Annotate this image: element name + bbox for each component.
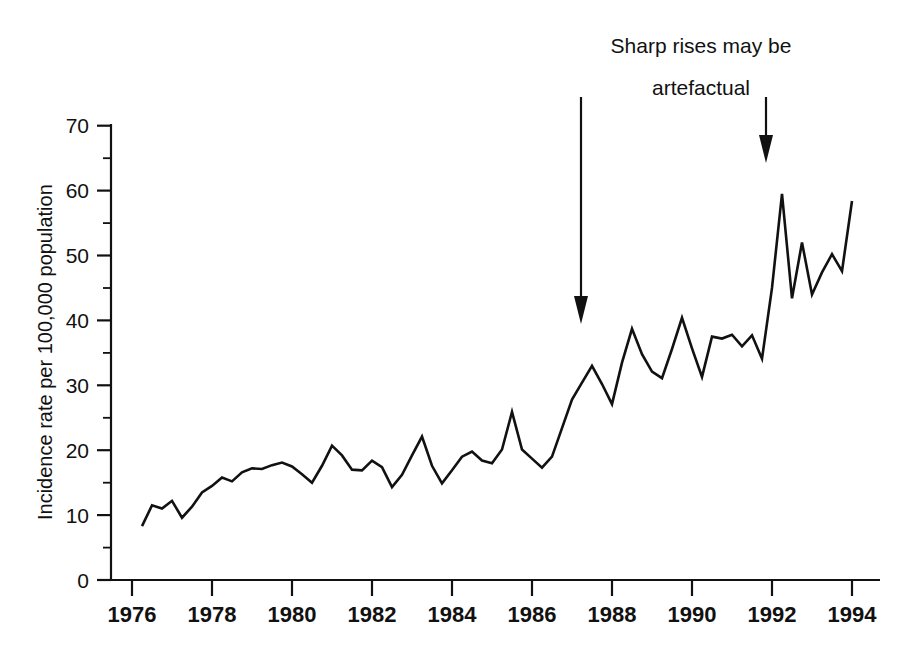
y-tick-label-30: 30 (66, 374, 89, 397)
annotation-line-2: artefactual (652, 76, 750, 99)
x-tick-label-1982: 1982 (348, 602, 397, 627)
x-tick-label-1988: 1988 (588, 602, 637, 627)
y-axis-ticks: 70 60 50 40 30 20 10 0 (66, 114, 111, 592)
y-tick-label-70: 70 (66, 114, 89, 137)
x-tick-label-1980: 1980 (268, 602, 317, 627)
y-tick-label-20: 20 (66, 439, 89, 462)
x-tick-label-1986: 1986 (508, 602, 557, 627)
x-tick-label-1992: 1992 (748, 602, 797, 627)
annotation-arrow-left (574, 97, 588, 324)
x-axis-ticks: 1976 1978 1980 1982 1984 1986 1988 1990 … (108, 580, 878, 627)
x-tick-label-1984: 1984 (428, 602, 478, 627)
y-axis-title: Incidence rate per 100,000 population (34, 184, 56, 520)
y-tick-label-0: 0 (77, 569, 89, 592)
annotation-arrow-right (759, 97, 773, 163)
x-tick-label-1994: 1994 (828, 602, 878, 627)
chart-figure: Incidence rate per 100,000 population 70 (0, 0, 911, 657)
y-tick-label-50: 50 (66, 244, 89, 267)
y-tick-label-10: 10 (66, 504, 89, 527)
annotation-line-1: Sharp rises may be (611, 34, 792, 57)
incidence-rate-line-chart: Incidence rate per 100,000 population 70 (0, 0, 911, 657)
data-series-incidence-rate (142, 194, 852, 526)
x-tick-label-1976: 1976 (108, 602, 157, 627)
y-tick-label-40: 40 (66, 309, 89, 332)
y-tick-label-60: 60 (66, 179, 89, 202)
axes (111, 124, 880, 580)
x-tick-label-1978: 1978 (188, 602, 237, 627)
x-tick-label-1990: 1990 (668, 602, 717, 627)
annotation-text: Sharp rises may be artefactual (611, 34, 792, 99)
